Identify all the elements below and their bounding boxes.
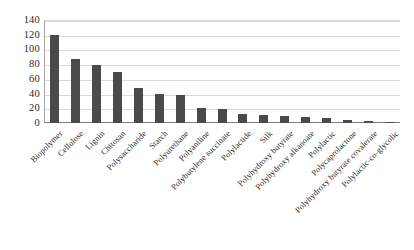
bars-layer bbox=[44, 20, 400, 123]
y-axis-tick-label: 60 bbox=[0, 74, 40, 84]
bar bbox=[155, 94, 164, 123]
bar bbox=[218, 109, 227, 123]
y-axis-tick-label: 20 bbox=[0, 103, 40, 113]
bar bbox=[238, 114, 247, 123]
y-axis-tick-label: 100 bbox=[0, 44, 40, 54]
y-axis-tick-label: 40 bbox=[0, 89, 40, 99]
bar bbox=[92, 65, 101, 123]
bar bbox=[113, 72, 122, 123]
y-axis-tick-label: 140 bbox=[0, 15, 40, 25]
y-axis-tick-label: 80 bbox=[0, 59, 40, 69]
x-axis-category-labels: BiopolymerCelluloseLigninChitosanPolysac… bbox=[0, 123, 414, 250]
bar bbox=[259, 115, 268, 123]
bar bbox=[197, 108, 206, 123]
bar bbox=[176, 95, 185, 123]
bar bbox=[50, 35, 59, 123]
bar bbox=[71, 59, 80, 123]
y-axis-tick-label: 120 bbox=[0, 30, 40, 40]
bar bbox=[280, 116, 289, 123]
bar-chart: 140120100806040200 BiopolymerCelluloseLi… bbox=[0, 0, 414, 250]
bar bbox=[134, 88, 143, 123]
